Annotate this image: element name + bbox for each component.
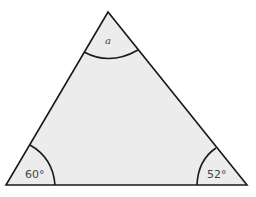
triangle-shape <box>6 12 247 185</box>
bottom-right-angle-label: 52° <box>207 168 227 181</box>
triangle-diagram: a 60° 52° <box>0 0 256 197</box>
top-angle-label: a <box>105 35 111 46</box>
bottom-left-angle-label: 60° <box>25 168 45 181</box>
